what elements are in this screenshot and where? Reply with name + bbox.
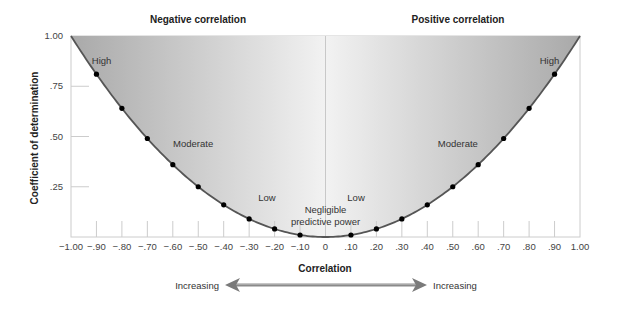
data-point: [145, 136, 150, 141]
x-tick-label: .10: [344, 241, 357, 252]
x-tick-label: .40: [421, 241, 434, 252]
annotation-label: High: [540, 55, 560, 66]
data-point: [450, 184, 455, 189]
x-tick-label: −.30: [240, 241, 259, 252]
x-tick-label: −.20: [265, 241, 284, 252]
annotation-label: Low: [347, 192, 365, 203]
data-point: [221, 202, 226, 207]
annotation-label: Low: [258, 192, 276, 203]
data-point: [374, 226, 379, 231]
x-tick-label: .70: [497, 241, 510, 252]
x-tick-label: .90: [548, 241, 561, 252]
x-tick-label: −.40: [214, 241, 233, 252]
x-tick-label: 1.00: [571, 241, 590, 252]
x-tick-label: −.90: [87, 241, 106, 252]
data-point: [247, 216, 252, 221]
x-tick-label: 0: [323, 241, 328, 252]
data-point: [119, 106, 124, 111]
x-tick-label: −.60: [163, 241, 182, 252]
x-axis-label: Correlation: [298, 263, 351, 274]
title-positive-correlation: Positive correlation: [412, 14, 505, 25]
arrow-right-label: Increasing: [433, 280, 477, 291]
data-point: [348, 232, 353, 237]
y-tick-label: 1.00: [45, 30, 64, 41]
coefficient-of-determination-chart: .25.50.751.00 −1.00−.90−.80−.70−.60−.50−…: [0, 0, 618, 313]
data-point: [272, 226, 277, 231]
increasing-arrow: [225, 278, 427, 292]
data-point: [196, 184, 201, 189]
y-tick-label: .25: [50, 181, 63, 192]
x-tick-label: −.80: [113, 241, 132, 252]
title-negative-correlation: Negative correlation: [150, 14, 246, 25]
x-tick-label: −.10: [291, 241, 310, 252]
annotation-label: Moderate: [173, 138, 213, 149]
y-tick-label: .75: [50, 80, 63, 91]
data-point: [399, 216, 404, 221]
x-tick-label: .60: [472, 241, 485, 252]
annotation-label: High: [92, 55, 112, 66]
data-point: [425, 202, 430, 207]
data-point: [527, 106, 532, 111]
x-tick-label: .50: [446, 241, 459, 252]
x-tick-label: .80: [522, 241, 535, 252]
x-tick-label: −.70: [138, 241, 157, 252]
data-point: [476, 162, 481, 167]
data-point: [170, 162, 175, 167]
x-tick-label: .30: [395, 241, 408, 252]
y-axis-label: Coefficient of determination: [29, 72, 40, 205]
annotation-label: predictive power: [291, 216, 360, 227]
y-tick-label: .50: [50, 131, 63, 142]
x-tick-label: −1.00: [59, 241, 83, 252]
data-point: [501, 136, 506, 141]
data-point: [94, 72, 99, 77]
annotation-label: Negligible: [305, 204, 347, 215]
x-tick-label: −.50: [189, 241, 208, 252]
arrow-left-label: Increasing: [175, 280, 219, 291]
data-point: [297, 232, 302, 237]
x-tick-label: .20: [370, 241, 383, 252]
data-point: [552, 72, 557, 77]
annotation-label: Moderate: [438, 138, 478, 149]
